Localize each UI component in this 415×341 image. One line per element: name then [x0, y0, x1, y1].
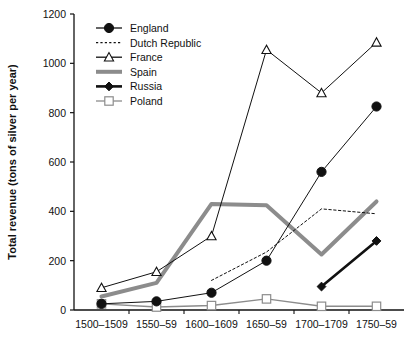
- x-tick-label: 1500–1509: [75, 318, 128, 330]
- y-tick-group: 020040060080010001200: [43, 8, 74, 316]
- y-tick-label: 800: [48, 107, 66, 119]
- legend-item-england: England: [96, 22, 169, 34]
- legend: EnglandDutch RepublicFranceSpainRussiaPo…: [96, 22, 201, 107]
- data-point-marker: [97, 283, 106, 291]
- y-tick-label: 1200: [43, 8, 67, 20]
- axes-group: [74, 14, 404, 310]
- legend-item-spain: Spain: [96, 66, 157, 78]
- series-poland: [97, 295, 380, 312]
- data-point-marker: [372, 102, 381, 111]
- legend-item-france: France: [96, 51, 163, 63]
- legend-label: France: [130, 51, 163, 63]
- series-line: [102, 299, 377, 307]
- legend-item-dutch-republic: Dutch Republic: [96, 37, 201, 49]
- data-point-marker: [317, 302, 325, 310]
- legend-swatch-marker: [105, 82, 114, 91]
- y-tick-label: 0: [60, 304, 66, 316]
- data-point-marker: [207, 231, 216, 239]
- legend-item-russia: Russia: [96, 80, 162, 92]
- y-tick-label: 200: [48, 255, 66, 267]
- revenue-line-chart: 0200400600800100012001500–15091550–59160…: [0, 0, 415, 341]
- series-line: [102, 201, 377, 296]
- data-point-marker: [262, 256, 271, 265]
- data-point-marker: [372, 302, 380, 310]
- y-tick-label: 1000: [43, 57, 67, 69]
- y-tick-label: 600: [48, 156, 66, 168]
- data-point-marker: [207, 288, 216, 297]
- data-point-marker: [262, 295, 270, 303]
- series-spain: [102, 201, 377, 296]
- y-axis-title: Total revenue (tons of silver per year): [6, 64, 18, 260]
- legend-label: Russia: [130, 80, 162, 92]
- data-point-marker: [97, 299, 106, 308]
- series-line: [212, 209, 377, 281]
- x-tick-label: 1550–59: [136, 318, 177, 330]
- legend-item-poland: Poland: [96, 95, 163, 107]
- series-dutch-republic: [212, 209, 377, 281]
- x-tick-label: 1650–59: [246, 318, 287, 330]
- legend-swatch-marker: [104, 23, 113, 32]
- x-tick-group: 1500–15091550–591600–16091650–591700–170…: [75, 310, 397, 330]
- series-line: [102, 42, 377, 287]
- legend-swatch-marker: [105, 97, 113, 105]
- legend-label: Dutch Republic: [130, 37, 201, 49]
- legend-label: Poland: [130, 95, 163, 107]
- x-tick-label: 1750–59: [356, 318, 397, 330]
- data-point-marker: [152, 267, 161, 275]
- data-point-marker: [317, 167, 326, 176]
- legend-label: Spain: [130, 66, 157, 78]
- x-tick-label: 1600–1609: [185, 318, 238, 330]
- legend-label: England: [130, 22, 169, 34]
- chart-container: 0200400600800100012001500–15091550–59160…: [0, 0, 415, 341]
- data-point-marker: [152, 297, 161, 306]
- data-point-marker: [372, 38, 381, 46]
- series-russia: [317, 237, 381, 291]
- y-tick-label: 400: [48, 205, 66, 217]
- x-tick-label: 1700–1709: [295, 318, 348, 330]
- data-point-marker: [207, 301, 215, 309]
- data-point-marker: [262, 45, 271, 53]
